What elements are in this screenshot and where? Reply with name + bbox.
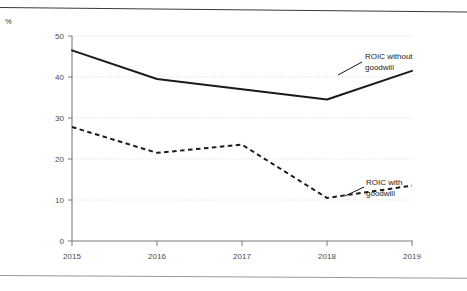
y-axis-label-30: 30 — [42, 114, 64, 123]
series-annotation-without-goodwill: ROIC without goodwill — [365, 52, 413, 73]
chart-figure: % 50 40 30 20 — [0, 0, 467, 291]
series-annotation-without-goodwill-line1: ROIC without — [365, 52, 413, 63]
x-axis-label-2015: 2015 — [52, 252, 92, 261]
gridlines — [72, 36, 413, 200]
x-axis-label-2016: 2016 — [137, 252, 177, 261]
y-axis-label-40: 40 — [42, 73, 64, 82]
series-annotation-without-goodwill-line2: goodwill — [365, 63, 413, 74]
line-chart-plot — [0, 0, 467, 291]
y-axis-label-0: 0 — [42, 237, 64, 246]
x-axis-label-2018: 2018 — [307, 252, 347, 261]
leader-line-with-goodwill — [345, 187, 364, 196]
x-axis-label-2019: 2019 — [392, 252, 432, 261]
series-annotation-with-goodwill-line2: goodwill — [366, 189, 402, 200]
leader-line-without-goodwill — [338, 62, 362, 75]
series-annotation-with-goodwill-line1: ROIC with — [366, 178, 402, 189]
x-axis-label-2017: 2017 — [222, 252, 262, 261]
y-axis-label-50: 50 — [42, 32, 64, 41]
y-axis-label-10: 10 — [42, 196, 64, 205]
series-line-roic-with-goodwill — [72, 127, 412, 198]
series-line-roic-without-goodwill — [72, 50, 412, 99]
y-axis-label-20: 20 — [42, 155, 64, 164]
series-annotation-with-goodwill: ROIC with goodwill — [366, 178, 402, 199]
